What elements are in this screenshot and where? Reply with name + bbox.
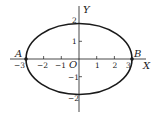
- x-tick-label: −3: [14, 61, 25, 70]
- y-tick-label: 1: [72, 37, 77, 46]
- y-tick-label: 2: [72, 16, 77, 25]
- x-tick-label: −2: [37, 61, 48, 70]
- diagram-canvas: −3 −2 −1 1 2 3 2 1 −1 −2 O Y X A B: [0, 0, 161, 117]
- origin-label: O: [69, 59, 77, 70]
- y-tick-label: −2: [68, 94, 79, 103]
- point-a-label: A: [14, 48, 22, 59]
- y-tick-label: −1: [68, 73, 79, 82]
- x-tick-label: 3: [126, 61, 131, 70]
- x-tick-label: 2: [113, 61, 118, 70]
- point-b-label: B: [133, 48, 141, 59]
- x-tick-label: 1: [95, 61, 100, 70]
- x-tick-label: −1: [55, 61, 66, 70]
- x-axis-label: X: [142, 60, 151, 71]
- y-axis-label: Y: [83, 4, 91, 15]
- ellipse-diagram: −3 −2 −1 1 2 3 2 1 −1 −2 O Y X A B: [0, 0, 161, 117]
